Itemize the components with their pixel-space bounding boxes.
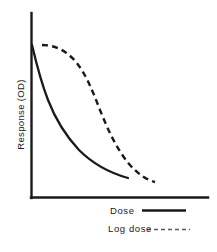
dose-curve-solid xyxy=(32,45,128,178)
y-axis-label: Response (OD) xyxy=(15,67,26,163)
dose-response-figure: Response (OD) Dose Log dose xyxy=(0,0,217,252)
legend-label-dose: Dose xyxy=(110,205,135,216)
plot-area xyxy=(0,0,217,252)
legend-label-log-dose: Log dose xyxy=(108,223,152,234)
log-dose-curve-dashed xyxy=(42,45,155,182)
